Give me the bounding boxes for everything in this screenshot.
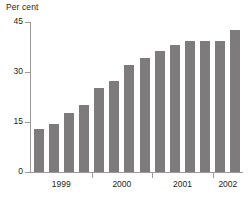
bar [34, 129, 44, 172]
x-axis-separator [213, 173, 214, 178]
bar [200, 41, 210, 172]
x-axis-separator [152, 173, 153, 178]
bar [94, 88, 104, 172]
bar [170, 45, 180, 172]
bar [185, 41, 195, 172]
bar [64, 113, 74, 172]
bars-layer [31, 22, 243, 172]
y-axis-tick [25, 22, 30, 23]
bar [155, 51, 165, 172]
bar [124, 65, 134, 172]
y-axis-tick-label: 30 [1, 67, 23, 76]
y-axis-tick-label: 0 [1, 167, 23, 176]
y-axis-tick-label: 45 [1, 17, 23, 26]
bar [140, 58, 150, 172]
bar [109, 81, 119, 172]
bar [79, 105, 89, 172]
y-axis-title: Per cent [6, 2, 38, 12]
bar [230, 30, 240, 172]
x-axis-line [30, 172, 243, 173]
y-axis-tick [25, 122, 30, 123]
bar [49, 124, 59, 172]
y-axis-tick [25, 172, 30, 173]
bar [215, 41, 225, 172]
y-axis-tick [25, 72, 30, 73]
x-axis-group-label: 2001 [162, 180, 202, 189]
y-axis-tick-label: 15 [1, 117, 23, 126]
x-axis-group-label: 1999 [41, 180, 81, 189]
x-axis-separator [92, 173, 93, 178]
bar-chart: Per cent 0153045 1999200020012002 [0, 0, 250, 199]
x-axis-group-label: 2002 [208, 180, 248, 189]
x-axis-group-label: 2000 [102, 180, 142, 189]
